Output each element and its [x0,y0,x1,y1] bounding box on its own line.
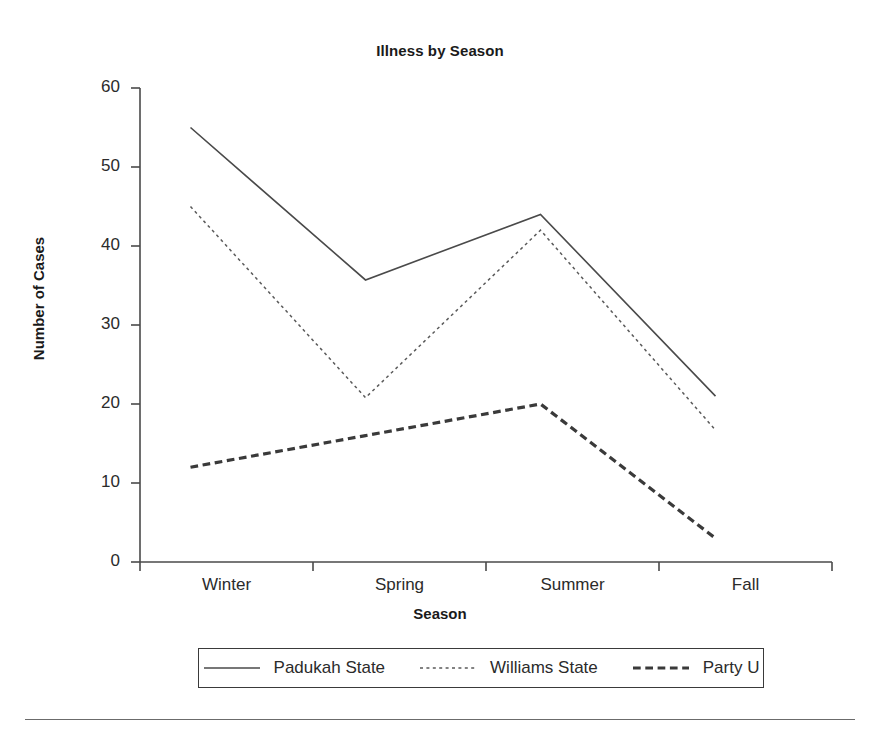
x-tick-label: Spring [320,575,480,595]
legend-label: Williams State [490,658,598,678]
x-tick-label: Winter [147,575,307,595]
series-line [191,128,716,397]
legend-entry[interactable]: Padukah State [203,658,386,678]
y-tick-label: 0 [80,551,120,571]
x-tick-label: Fall [666,575,826,595]
y-tick-label: 30 [80,314,120,334]
series-line [191,207,716,431]
y-tick-label: 20 [80,393,120,413]
chart-figure: Illness by Season 0102030405060 WinterSp… [0,0,880,745]
y-tick-marks [131,88,140,562]
chart-legend: Padukah StateWilliams StateParty U [198,648,764,688]
legend-swatch-dashed [632,661,690,675]
y-tick-label: 60 [80,77,120,97]
axis-lines [140,88,832,562]
y-tick-label: 50 [80,156,120,176]
x-tick-label: Summer [493,575,653,595]
series-line [191,404,716,538]
y-axis-title: Number of Cases [30,199,47,399]
x-axis-title: Season [0,605,880,622]
y-tick-label: 10 [80,472,120,492]
data-series-lines [191,128,716,539]
legend-swatch-dotted [419,661,477,675]
legend-entry[interactable]: Williams State [419,658,598,678]
legend-swatch-solid [203,661,261,675]
legend-label: Padukah State [274,658,386,678]
legend-entry[interactable]: Party U [632,658,760,678]
legend-label: Party U [703,658,760,678]
page-divider-rule [25,719,855,720]
y-tick-label: 40 [80,235,120,255]
x-tick-marks [140,562,832,571]
plot-area [0,0,880,745]
